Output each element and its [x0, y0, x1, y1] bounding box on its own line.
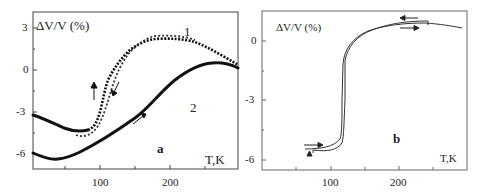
panel-b-xtick-100: 100 [322, 176, 339, 188]
panel-b-ytick-minus3: -3 [245, 93, 255, 105]
arrow-up-head-icon [91, 82, 97, 88]
figure: 3 0 -3 -6 100 200 ΔV/V (%) T,K a 1 2 [0, 0, 487, 195]
panel-a-ytick-3: 3 [22, 21, 28, 33]
panel-a-ylabel: ΔV/V (%) [36, 18, 89, 33]
panel-b-ytick-0: 0 [251, 34, 257, 46]
panel-a-ytick-minus3: -3 [16, 105, 26, 117]
panel-b-ticks [262, 41, 433, 170]
panel-b-frame [262, 11, 467, 170]
panel-a: 3 0 -3 -6 100 200 ΔV/V (%) T,K a 1 2 [16, 12, 238, 188]
curve-1-heating [88, 39, 238, 130]
curve-2-label: 2 [190, 100, 197, 115]
panel-b-arrows [304, 16, 419, 157]
panel-a-ytick-minus6: -6 [16, 147, 26, 159]
arrow-up-icon [307, 151, 312, 156]
arrow-down-icon [114, 82, 119, 92]
panel-a-ytick-0: 0 [23, 63, 29, 75]
panel-a-yticks [33, 28, 205, 169]
curve-b-cooling [313, 21, 428, 153]
panel-a-frame [33, 12, 238, 169]
panel-a-xtick-100: 100 [92, 176, 109, 188]
panel-b-xlabel: T,K [440, 152, 457, 164]
curve-b-heating [305, 23, 462, 149]
curve-2 [33, 63, 238, 159]
panel-b-label: b [393, 131, 400, 146]
panel-b-ytick-minus6: -6 [245, 153, 255, 165]
panel-a-xtick-200: 200 [162, 176, 179, 188]
panel-b-xtick-200: 200 [390, 176, 407, 188]
panel-b-ylabel: ΔV/V (%) [276, 21, 321, 34]
panel-a-xlabel: T,K [205, 152, 225, 167]
panel-b: 0 -3 -6 100 200 ΔV/V (%) T,K b [245, 11, 467, 188]
curve-1-label: 1 [184, 24, 191, 39]
panel-a-label: a [157, 141, 164, 156]
